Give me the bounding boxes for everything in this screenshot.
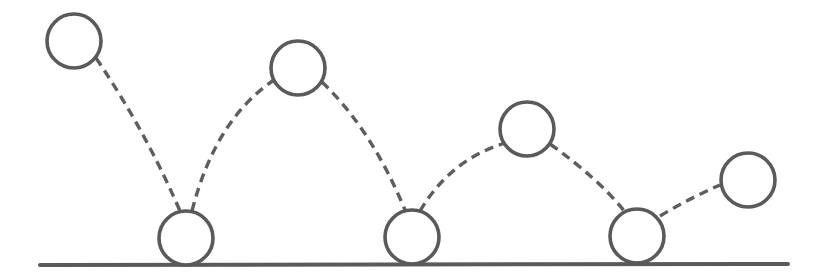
ball-circle [385,210,439,264]
trajectory-segment [420,143,505,211]
trajectory-segment [660,185,720,216]
ball-circle [159,211,213,265]
bouncing-ball-diagram [0,0,823,278]
trajectory-segment [192,80,274,211]
ball-circle [721,153,775,207]
ball-circle [271,41,325,95]
trajectory-segment [96,58,180,211]
trajectory-segment [550,144,625,212]
ball-circle [47,14,101,68]
ball-circle [500,102,554,156]
trajectory-segment [322,82,405,210]
trajectory-paths [96,58,720,216]
balls [47,14,775,265]
ball-circle [610,209,664,263]
